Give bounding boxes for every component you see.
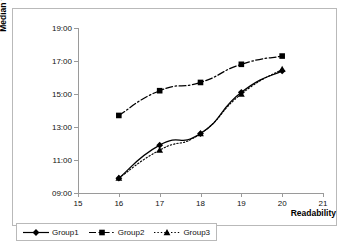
legend-item-group1[interactable]: Group1 — [23, 228, 79, 237]
chart-legend: Group1Group2Group3 — [16, 223, 217, 241]
plot-area — [78, 28, 323, 193]
legend-label: Group3 — [183, 228, 210, 237]
legend-item-group3[interactable]: Group3 — [154, 228, 210, 237]
x-tick-label: 15 — [74, 199, 83, 208]
legend-label: Group2 — [118, 228, 145, 237]
x-tick-label: 21 — [319, 199, 328, 208]
x-tick-label: 18 — [196, 199, 205, 208]
x-tick-mark — [78, 193, 79, 197]
y-axis-title: Median time (seconds) — [0, 0, 8, 46]
x-tick-mark — [160, 193, 161, 197]
series-layer — [78, 28, 323, 193]
legend-label: Group1 — [52, 228, 79, 237]
legend-marker-triangle-icon — [154, 228, 180, 237]
x-tick-mark — [323, 193, 324, 197]
chart-figure: 09:0011:0013:0015:0017:0019:00 151617181… — [0, 0, 350, 245]
x-tick-label: 16 — [114, 199, 123, 208]
x-tick-label: 17 — [155, 199, 164, 208]
x-tick-mark — [201, 193, 202, 197]
x-tick-mark — [282, 193, 283, 197]
x-tick-label: 20 — [278, 199, 287, 208]
x-tick-mark — [241, 193, 242, 197]
x-tick-label: 19 — [237, 199, 246, 208]
x-axis-title: Readability — [291, 208, 336, 218]
series-group2 — [116, 53, 285, 118]
x-tick-mark — [119, 193, 120, 197]
legend-item-group2[interactable]: Group2 — [89, 228, 145, 237]
legend-marker-diamond-icon — [23, 228, 49, 237]
legend-marker-square-icon — [89, 228, 115, 237]
